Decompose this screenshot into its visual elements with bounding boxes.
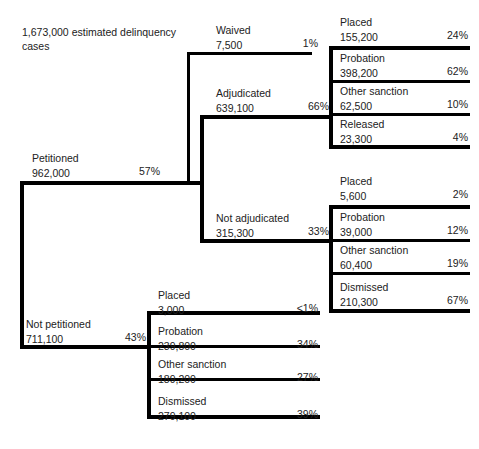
node-not-adjudicated-placed: Placed 5,600 2% [340, 175, 468, 201]
adjudicated-outcome-arm-other [329, 113, 470, 116]
delinquency-flow-diagram: 1,673,000 estimated delinquency cases Pe… [0, 0, 479, 449]
node-not-adjudicated-other-sanction-label: Other sanction [340, 244, 468, 257]
node-waived-percent: 1% [303, 37, 318, 50]
node-adjudicated-other-sanction: Other sanction 62,500 10% [340, 85, 468, 111]
node-adjudicated-probation-label: Probation [340, 52, 468, 65]
root-bracket-spine [20, 181, 24, 349]
node-adjudicated-placed-value: 155,200 [340, 31, 378, 43]
node-not-adjudicated-probation: Probation 39,000 12% [340, 211, 468, 237]
node-not-adjudicated-placed-percent: 2% [453, 188, 468, 201]
not-adjudicated-outcome-arm-other [329, 272, 470, 275]
node-not-petitioned-placed: Placed 3,000 <1% [158, 289, 318, 315]
node-waived-value: 7,500 [216, 39, 242, 51]
node-not-petitioned-probation-value: 239,800 [158, 340, 196, 352]
node-not-petitioned-other-sanction-label: Other sanction [158, 358, 318, 371]
node-not-adjudicated-other-sanction-percent: 19% [447, 257, 468, 270]
diagram-caption: 1,673,000 estimated delinquency cases [22, 25, 197, 53]
not-petitioned-outcome-spine [147, 311, 151, 419]
node-petitioned-percent: 57% [139, 165, 160, 178]
node-not-adjudicated-placed-label: Placed [340, 175, 468, 188]
node-adjudicated-released-label: Released [340, 118, 468, 131]
adjudicated-outcome-arm-released [329, 145, 470, 149]
node-not-adjudicated-other-sanction: Other sanction 60,400 19% [340, 244, 468, 270]
root-bracket-arm-petitioned [20, 181, 202, 185]
node-waived-label: Waived [216, 24, 318, 37]
node-not-adjudicated-percent: 33% [308, 225, 329, 238]
node-waived: Waived 7,500 1% [216, 24, 318, 50]
node-petitioned-label: Petitioned [32, 152, 160, 165]
node-not-petitioned-value: 711,100 [26, 333, 63, 345]
node-not-adjudicated-probation-value: 39,000 [340, 226, 372, 238]
node-not-petitioned-dismissed-value: 279,100 [158, 410, 196, 422]
node-not-adjudicated-probation-percent: 12% [447, 224, 468, 237]
node-adjudicated-other-sanction-label: Other sanction [340, 85, 468, 98]
node-not-adjudicated: Not adjudicated 315,300 33% [216, 212, 329, 238]
node-adjudicated-probation-percent: 62% [447, 65, 468, 78]
node-not-petitioned-placed-value: 3,000 [158, 304, 184, 316]
petitioned-arm-not-adjudicated [200, 239, 332, 243]
node-not-petitioned-probation-percent: 34% [297, 338, 318, 351]
adjudicated-outcome-spine [329, 46, 333, 148]
node-not-adjudicated-probation-label: Probation [340, 211, 468, 224]
node-not-petitioned-dismissed-label: Dismissed [158, 395, 318, 408]
node-not-petitioned-other-sanction-percent: 27% [297, 371, 318, 384]
node-adjudicated-placed-percent: 24% [447, 29, 468, 42]
node-adjudicated-probation-value: 398,200 [340, 67, 378, 79]
node-not-adjudicated-dismissed-value: 210,300 [340, 296, 378, 308]
node-adjudicated-released-percent: 4% [453, 131, 468, 144]
node-not-petitioned-dismissed: Dismissed 279,100 39% [158, 395, 318, 421]
node-not-adjudicated-dismissed: Dismissed 210,300 67% [340, 281, 468, 307]
node-not-petitioned-dismissed-percent: 39% [297, 408, 318, 421]
node-not-adjudicated-value: 315,300 [216, 227, 254, 239]
not-adjudicated-outcome-arm-dismissed [329, 309, 470, 313]
node-adjudicated-value: 639,100 [216, 102, 254, 114]
petitioned-bracket-spine-waived [187, 52, 190, 183]
node-adjudicated-percent: 66% [308, 100, 329, 113]
node-adjudicated: Adjudicated 639,100 66% [216, 87, 329, 113]
root-bracket-arm-not-petitioned [20, 345, 150, 349]
not-adjudicated-outcome-arm-probation [329, 239, 470, 242]
node-not-adjudicated-dismissed-percent: 67% [447, 294, 468, 307]
petitioned-arm-waived [187, 52, 312, 55]
node-petitioned-value: 962,000 [32, 167, 70, 179]
node-not-petitioned-other-sanction-value: 189,200 [158, 373, 196, 385]
not-adjudicated-outcome-arm-placed [329, 205, 470, 209]
node-adjudicated-placed: Placed 155,200 24% [340, 16, 468, 42]
node-not-petitioned: Not petitioned 711,100 43% [26, 318, 146, 344]
node-adjudicated-placed-label: Placed [340, 16, 468, 29]
node-adjudicated-other-sanction-percent: 10% [447, 98, 468, 111]
node-adjudicated-released: Released 23,300 4% [340, 118, 468, 144]
node-not-adjudicated-other-sanction-value: 60,400 [340, 259, 372, 271]
node-not-petitioned-probation: Probation 239,800 34% [158, 325, 318, 351]
not-adjudicated-outcome-spine [329, 205, 333, 313]
node-not-adjudicated-dismissed-label: Dismissed [340, 281, 468, 294]
node-adjudicated-other-sanction-value: 62,500 [340, 100, 372, 112]
adjudicated-outcome-arm-placed [329, 46, 470, 50]
node-adjudicated-released-value: 23,300 [340, 133, 372, 145]
node-not-petitioned-probation-label: Probation [158, 325, 318, 338]
node-adjudicated-label: Adjudicated [216, 87, 329, 100]
petitioned-bracket-spine-adjudication [200, 115, 204, 243]
node-not-petitioned-placed-label: Placed [158, 289, 318, 302]
node-not-petitioned-percent: 43% [125, 331, 146, 344]
node-not-petitioned-placed-percent: <1% [297, 302, 318, 315]
node-not-petitioned-label: Not petitioned [26, 318, 146, 331]
node-not-adjudicated-placed-value: 5,600 [340, 190, 366, 202]
adjudicated-outcome-arm-probation [329, 80, 470, 83]
node-petitioned: Petitioned 962,000 57% [32, 152, 160, 178]
node-adjudicated-probation: Probation 398,200 62% [340, 52, 468, 78]
node-not-petitioned-other-sanction: Other sanction 189,200 27% [158, 358, 318, 384]
petitioned-arm-adjudicated [200, 115, 332, 119]
node-not-adjudicated-label: Not adjudicated [216, 212, 329, 225]
